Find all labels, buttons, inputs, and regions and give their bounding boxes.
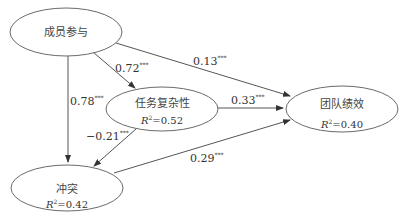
node-participation-label: 成员参与: [44, 25, 88, 39]
coef-participation-performance: 0.13***: [193, 54, 227, 68]
coef-conflict-performance: 0.29***: [190, 151, 224, 165]
node-performance: 团队绩效 R2=0.40: [286, 86, 398, 132]
node-conflict: 冲突 R2=0.42: [11, 165, 123, 211]
node-conflict-label: 冲突: [56, 182, 78, 196]
node-complexity: 任务复杂性 R2=0.52: [106, 87, 218, 131]
path-diagram: 成员参与 任务复杂性 R2=0.52 团队绩效 R2=0.40 冲突 R2=0.…: [0, 0, 401, 218]
coef-participation-conflict: 0.78***: [70, 94, 104, 108]
node-performance-r2: R2=0.40: [320, 118, 363, 130]
node-performance-label: 团队绩效: [320, 97, 364, 111]
coef-complexity-performance: 0.33***: [231, 93, 265, 107]
node-complexity-label: 任务复杂性: [135, 96, 190, 110]
coef-participation-complexity: 0.72***: [115, 61, 149, 75]
node-complexity-r2: R2=0.52: [140, 114, 183, 126]
node-participation: 成员参与: [10, 8, 122, 56]
node-conflict-r2: R2=0.42: [45, 198, 88, 210]
